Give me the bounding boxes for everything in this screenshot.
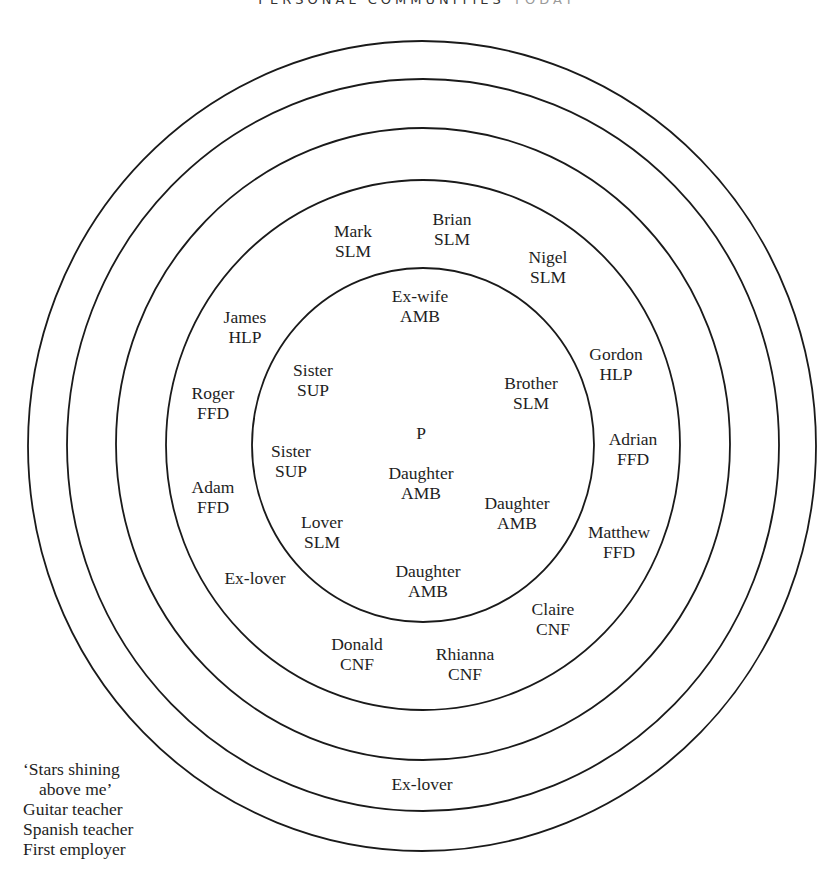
inner-member: SisterSUP bbox=[293, 360, 333, 400]
ring2-member: AdamFFD bbox=[192, 477, 235, 517]
inner-member: DaughterAMB bbox=[388, 463, 453, 503]
inner-member: SisterSUP bbox=[271, 441, 311, 481]
inner-member: Ex-wifeAMB bbox=[392, 286, 448, 326]
ring2-member: NigelSLM bbox=[529, 247, 568, 287]
outside-list: ‘Stars shining above me’ Guitar teacher … bbox=[23, 759, 133, 859]
ring2-member: ClaireCNF bbox=[532, 599, 575, 639]
ring2-member: GordonHLP bbox=[589, 344, 642, 384]
ring2-member: RogerFFD bbox=[192, 383, 235, 423]
ring2-member: RhiannaCNF bbox=[436, 644, 494, 684]
ring-4 bbox=[166, 180, 680, 710]
inner-member: DaughterAMB bbox=[484, 493, 549, 533]
ring2-member: JamesHLP bbox=[224, 307, 267, 347]
outside-line: First employer bbox=[23, 839, 133, 859]
outside-line: ‘Stars shining bbox=[23, 759, 133, 779]
center-label: P bbox=[416, 423, 426, 443]
inner-member: DaughterAMB bbox=[395, 561, 460, 601]
inner-member: LoverSLM bbox=[301, 512, 343, 552]
ring2-member: MatthewFFD bbox=[588, 522, 650, 562]
ring2-member: Ex-lover bbox=[224, 568, 285, 588]
ring-outer bbox=[28, 41, 816, 851]
ring2-member: MarkSLM bbox=[334, 221, 372, 261]
ring2-member: BrianSLM bbox=[433, 209, 472, 249]
outside-line: Spanish teacher bbox=[23, 819, 133, 839]
ring2-member: DonaldCNF bbox=[331, 634, 383, 674]
outside-line: Guitar teacher bbox=[23, 799, 133, 819]
inner-member: BrotherSLM bbox=[504, 373, 557, 413]
ring2-member: AdrianFFD bbox=[609, 429, 658, 469]
ring-2 bbox=[67, 79, 779, 811]
ring4-member: Ex-lover bbox=[391, 774, 452, 794]
outside-line: above me’ bbox=[23, 779, 133, 799]
